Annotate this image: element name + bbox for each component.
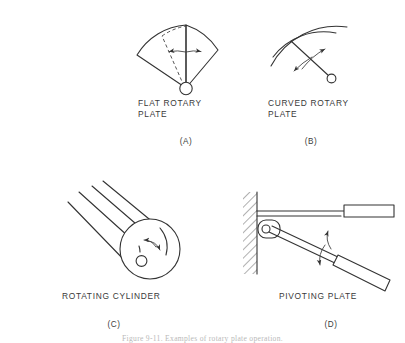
sector-right-half <box>186 25 218 88</box>
sector-left-half <box>137 25 186 88</box>
rotation-arrow-down <box>320 245 325 265</box>
panel-b-letter: (B) <box>291 137 331 146</box>
figure-sheet: FLAT ROTARY PLATE CURVED ROTARY PLATE RO… <box>0 0 405 343</box>
cylinder-edge-4 <box>68 202 129 265</box>
panel-a-title: FLAT ROTARY PLATE <box>138 98 202 119</box>
rotation-arrow-upper <box>302 49 325 69</box>
panel-d-letter: (D) <box>311 320 351 329</box>
upper-plate-block <box>344 205 394 217</box>
panel-b-curved-rotary-plate <box>271 26 347 83</box>
panel-c-letter: (C) <box>94 320 134 329</box>
lower-plate-arm-top <box>272 226 340 258</box>
panel-c-title: ROTATING CYLINDER <box>62 291 161 302</box>
shaft-circle <box>136 256 147 267</box>
pivot-circle <box>327 74 336 83</box>
panel-b-title: CURVED ROTARY PLATE <box>268 98 349 119</box>
cylinder-end-circle <box>120 219 180 279</box>
rotation-arrow-left <box>169 51 186 52</box>
lower-plate-block <box>333 255 390 291</box>
rotation-arrow-up <box>327 231 331 249</box>
panel-a-flat-rotary-plate <box>137 25 218 95</box>
pivot-circle <box>180 82 192 94</box>
rotation-arrow-right <box>186 51 201 52</box>
panel-c-rotating-cylinder <box>68 181 180 279</box>
wall-hatching <box>243 192 257 274</box>
panel-d-pivoting-plate <box>243 192 394 291</box>
panel-a-letter: (A) <box>166 137 206 146</box>
outer-arc <box>271 26 347 66</box>
figure-caption: Figure 9-11. Examples of rotary plate op… <box>0 334 405 343</box>
panel-d-title: PIVOTING PLATE <box>279 291 357 302</box>
rotation-arrow-lower <box>294 57 312 71</box>
dashed-alternate-position <box>162 36 184 86</box>
